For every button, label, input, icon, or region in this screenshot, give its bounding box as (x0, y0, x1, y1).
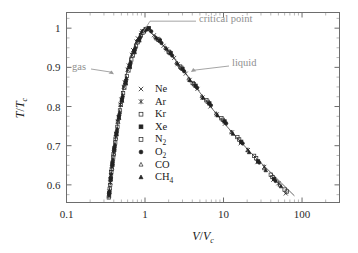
x-tick-label: 0.1 (60, 208, 74, 220)
y-tick-label: 0.7 (47, 140, 61, 152)
x-tick-label: 1 (142, 208, 148, 220)
legend-label-Ar: Ar (155, 96, 167, 107)
legend-label-Kr: Kr (155, 108, 167, 119)
y-tick-label: 1 (55, 22, 61, 34)
legend-label-Xe: Xe (155, 121, 168, 132)
legend-marker-Xe (139, 125, 143, 129)
legend-label-CO: CO (155, 159, 170, 170)
annotation-label-gas: gas (72, 61, 86, 72)
annotation-label-critical-point: critical point (199, 13, 252, 24)
legend-label-Ne: Ne (155, 83, 168, 94)
x-tick-label: 100 (294, 208, 311, 220)
plot-canvas: critical pointgasliquid 0.1110100 10.90.… (0, 0, 358, 253)
y-tick-label: 0.9 (47, 61, 61, 73)
annotation-label-liquid: liquid (232, 57, 257, 68)
guggenheim-corresponding-states-figure: critical pointgasliquid 0.1110100 10.90.… (0, 0, 358, 253)
x-tick-label: 10 (218, 208, 230, 220)
y-tick-label: 0.8 (47, 101, 61, 113)
y-tick-label: 0.6 (47, 179, 61, 191)
legend-marker-O2 (139, 150, 143, 154)
